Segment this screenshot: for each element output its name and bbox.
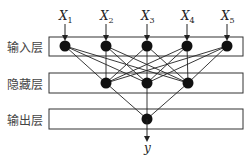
svg-text:X4: X4	[180, 9, 195, 25]
svg-text:X3: X3	[140, 9, 155, 25]
svg-text:X1: X1	[58, 9, 73, 25]
input-labels: X1 X2 X3 X4 X5	[58, 9, 235, 25]
network-diagram: X1 X2 X3 X4 X5	[0, 0, 252, 163]
input-arrows	[65, 24, 227, 38]
output-label: y	[143, 141, 151, 155]
input-hidden-connections	[65, 46, 227, 83]
svg-text:X2: X2	[99, 9, 114, 25]
input-nodes	[60, 41, 233, 52]
svg-text:X5: X5	[220, 9, 235, 25]
